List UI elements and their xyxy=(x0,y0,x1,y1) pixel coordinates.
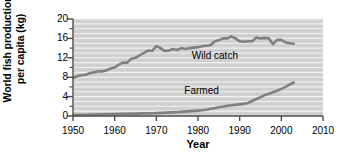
y-axis-title-line2: per capita (kg) xyxy=(14,14,26,84)
y-axis-title-line1: World fish production xyxy=(1,0,13,102)
x-tick-label: 1970 xyxy=(136,125,176,136)
x-tick-label: 2000 xyxy=(261,125,301,136)
x-tick-label: 1960 xyxy=(95,125,135,136)
y-tick-label: 8 xyxy=(48,72,68,82)
x-tick-label: 1990 xyxy=(220,125,260,136)
x-tick-label: 2010 xyxy=(303,125,342,136)
y-axis-title: World fish production per capita (kg) xyxy=(1,0,41,114)
y-tick-label: 12 xyxy=(48,53,68,63)
series-label-wild-catch: Wild catch xyxy=(192,50,238,61)
y-tick-label: 16 xyxy=(48,33,68,43)
x-axis-tick-labels: 1950196019701980199020002010 xyxy=(0,120,342,140)
chart-figure: World fish production per capita (kg) 04… xyxy=(0,0,342,157)
y-tick-label: 20 xyxy=(48,14,68,24)
series-label-farmed: Farmed xyxy=(184,85,218,96)
y-tick-label: 4 xyxy=(48,92,68,102)
x-tick-label: 1980 xyxy=(178,125,218,136)
x-axis-title: Year xyxy=(73,138,323,150)
x-tick-label: 1950 xyxy=(53,125,93,136)
